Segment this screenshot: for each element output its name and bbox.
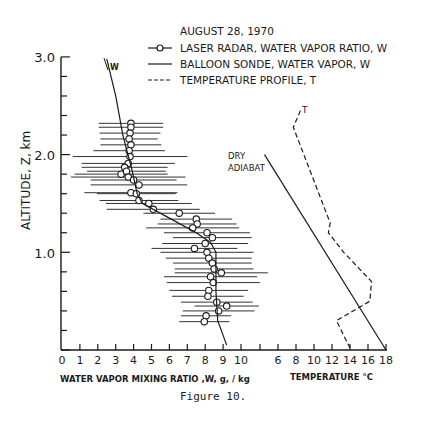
dry-adiabat-line [265,155,387,350]
dry-adiabat-label-2: ADIABAT [228,163,266,173]
laser-data-point [204,230,210,236]
legend-title: AUGUST 28, 1970 [180,25,274,37]
x2-tick-label: 14 [343,354,357,367]
laser-data-point [176,210,182,216]
y-ticks [61,57,70,350]
x2-tick-label: 18 [379,354,393,367]
x1-tick-label: 4 [130,354,137,367]
legend-label-temperature: TEMPERATURE PROFILE, T [179,74,317,86]
laser-data-point [218,270,224,276]
w-curve-label: W [110,63,119,72]
figure-10-chart: 3.0 2.0 1.0 ALTITUDE, Z, km 012345678910… [0,0,426,426]
x-ticks [80,344,386,350]
legend-item-laser: LASER RADAR, WATER VAPOR RATIO, W [148,42,388,54]
laser-data-point [191,245,197,251]
y-tick-2: 2.0 [34,148,55,163]
laser-data-point [202,240,208,246]
x1-tick-labels: 012345678910 [59,354,249,367]
x1-tick-label: 6 [166,354,173,367]
x1-tick-label: 0 [59,354,66,367]
x1-tick-label: 7 [184,354,191,367]
laser-data-point [136,182,142,188]
x2-tick-label: 8 [293,354,300,367]
legend-label-laser: LASER RADAR, WATER VAPOR RATIO, W [180,42,388,54]
laser-data-point [209,234,215,240]
x1-tick-label: 10 [234,354,248,367]
y-tick-3: 3.0 [34,50,55,65]
t-curve-label: T [301,105,308,115]
laser-data-point [215,308,221,314]
x2-tick-label: 6 [275,354,282,367]
figure-caption: Figure 10. [180,390,246,403]
x1-axis-label: WATER VAPOR MIXING RATIO ,W, g, / kg [60,374,250,384]
x2-tick-label: 16 [361,354,375,367]
x1-tick-label: 1 [76,354,83,367]
x1-tick-label: 9 [220,354,227,367]
x2-tick-label: 12 [325,354,339,367]
y-tick-1: 1.0 [34,246,55,261]
y-axis-label: ALTITUDE, Z, km [19,131,33,230]
legend-item-temperature: TEMPERATURE PROFILE, T [148,74,317,86]
x1-tick-label: 2 [94,354,101,367]
laser-data-point [205,293,211,299]
laser-data-point [223,303,229,309]
legend: AUGUST 28, 1970 LASER RADAR, WATER VAPOR… [148,25,388,86]
x1-tick-label: 5 [148,354,155,367]
temperature-profile-line [293,111,371,348]
legend-circle-icon [157,45,163,51]
legend-label-sonde: BALLOON SONDE, WATER VAPOR, W [180,58,371,70]
x1-tick-label: 3 [112,354,119,367]
legend-item-sonde: BALLOON SONDE, WATER VAPOR, W [148,58,371,70]
x2-tick-label: 10 [307,354,321,367]
dry-adiabat-label-1: DRY [228,151,246,161]
x2-axis-label: TEMPERATURE °C [290,372,373,382]
x1-tick-label: 8 [202,354,209,367]
laser-data-point [201,318,207,324]
x2-tick-labels: 681012141618 [275,354,394,367]
